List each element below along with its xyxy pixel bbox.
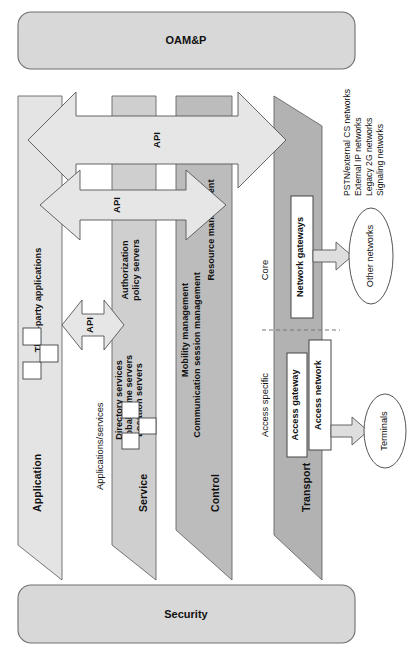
zone-label-access-specific: Access specific [259, 373, 270, 437]
external-network-signaling: Signaling networks [375, 124, 385, 196]
external-networks-list: PSTN/external CS networks External IP ne… [342, 89, 385, 196]
oamp-label: OAM&P [166, 34, 207, 46]
ellipse-other-networks: Other networks [349, 208, 393, 304]
security-label: Security [164, 608, 208, 620]
layer-label-control: Control [209, 474, 221, 512]
layer-label-application: Application [31, 454, 43, 512]
architecture-svg: OAM&P Application Third-party applicatio… [0, 0, 413, 656]
api-arrow-top-label: API [151, 132, 162, 148]
box-access-network-label: Access network [313, 359, 323, 430]
layer-label-transport: Transport [300, 462, 312, 512]
external-network-pstn: PSTN/external CS networks [342, 89, 352, 196]
item-policy-servers: policy servers [131, 239, 141, 301]
ellipse-terminals-label: Terminals [379, 411, 389, 451]
zone-label-core: Core [259, 260, 270, 280]
box-access-network[interactable]: Access network [309, 340, 331, 450]
box-network-gateways[interactable]: Network gateways [291, 196, 313, 318]
api-arrow-left-label: API [84, 317, 95, 333]
item-directory-services: Directory services [114, 360, 124, 440]
oamp-bar: OAM&P [18, 12, 355, 69]
item-communication-session-management: Communication session management [192, 272, 202, 437]
box-access-gateway-label: Access gateway [290, 369, 300, 441]
layer-transport: Transport [274, 96, 322, 580]
ellipse-other-networks-label: Other networks [365, 224, 375, 287]
api-arrow-mid-label: API [111, 197, 122, 213]
item-mobility-management: Mobility management [180, 283, 190, 377]
arrow-to-terminals [331, 417, 368, 445]
ellipse-terminals: Terminals [364, 394, 406, 468]
layer-service: Service Authorization policy servers Dir… [112, 96, 156, 580]
item-global-name-servers: Global name servers [124, 355, 134, 445]
diagram-canvas: OAM&P Application Third-party applicatio… [0, 0, 413, 656]
security-bar: Security [18, 585, 355, 643]
box-network-gateways-label: Network gateways [295, 217, 305, 297]
external-network-ip: External IP networks [353, 117, 363, 196]
label-applications-services: Applications/services [94, 402, 105, 490]
api-arrow-top: API [28, 92, 286, 188]
layer-label-service: Service [137, 474, 149, 512]
item-authorization: Authorization [120, 240, 130, 300]
external-network-2g: Legacy 2G networks [364, 118, 374, 196]
layer-control: Control Mobility management Communicatio… [176, 96, 232, 580]
box-access-gateway[interactable]: Access gateway [287, 353, 307, 457]
